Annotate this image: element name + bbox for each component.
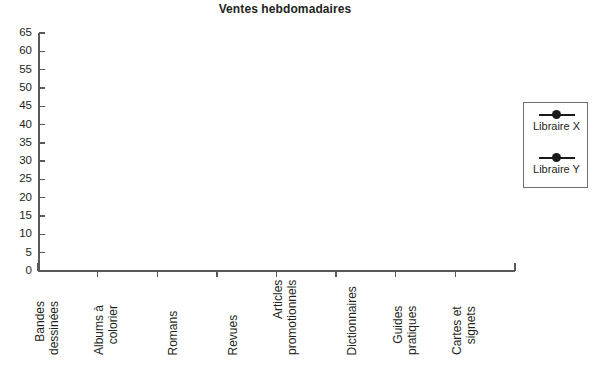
y-axis-tick — [39, 270, 45, 271]
x-axis-category-label: Dictionnaires — [345, 286, 359, 355]
legend-marker-dot-icon — [552, 153, 561, 162]
legend-entry[interactable]: Libraire X — [524, 110, 589, 133]
legend-label: Libraire X — [524, 120, 589, 133]
y-axis-tick — [39, 197, 45, 198]
y-axis-tick — [39, 69, 45, 70]
y-axis-tick — [39, 234, 45, 235]
y-axis-tick-label: 0 — [0, 265, 32, 277]
x-axis-tick — [395, 271, 396, 277]
x-axis-tick — [97, 271, 98, 277]
category-label-line: Cartes et — [451, 306, 465, 355]
y-axis-tick-label: 35 — [0, 137, 32, 149]
category-label-line: pratiques — [405, 306, 419, 355]
y-axis-tick-label: 30 — [0, 155, 32, 167]
chart-title: Ventes hebdomadaires — [0, 2, 570, 16]
category-label-line: promotionnels — [286, 280, 300, 355]
y-axis-tick — [39, 252, 45, 253]
y-axis-tick-label: 5 — [0, 247, 32, 259]
legend-label: Libraire Y — [524, 163, 589, 176]
chart-container: Ventes hebdomadaires 0510152025303540455… — [0, 0, 596, 379]
x-axis-category-label: Revues — [226, 314, 240, 355]
y-axis-tick-label: 10 — [0, 228, 32, 240]
legend-entry[interactable]: Libraire Y — [524, 153, 589, 176]
legend-line-marker-icon — [537, 110, 577, 120]
x-axis-start-cap — [37, 263, 38, 271]
x-axis-tick — [276, 271, 277, 277]
x-axis-category-label: Romans — [167, 310, 181, 355]
category-label-line: Albums à — [93, 305, 107, 355]
category-label-line: Romans — [167, 310, 181, 355]
y-axis-tick-label: 55 — [0, 64, 32, 76]
y-axis-tick-label: 60 — [0, 45, 32, 57]
y-axis-tick — [39, 51, 45, 52]
y-axis-tick — [39, 87, 45, 88]
x-axis-category-label: Articlespromotionnels — [272, 280, 299, 355]
category-label-line: Articles — [272, 280, 286, 355]
legend-line-marker-icon — [537, 153, 577, 163]
y-axis-tick — [39, 142, 45, 143]
category-label-line: signets — [465, 306, 479, 355]
y-axis-tick-label: 40 — [0, 119, 32, 131]
category-label-line: Revues — [226, 314, 240, 355]
category-label-line: dessinées — [47, 301, 61, 355]
x-axis-tick — [335, 271, 336, 277]
x-axis-end-cap — [514, 263, 515, 271]
y-axis-tick — [39, 106, 45, 107]
x-axis-tick — [455, 271, 456, 277]
category-label-line: Guides — [392, 306, 406, 355]
x-axis-tick — [157, 271, 158, 277]
x-axis-category-label: Albums àcolorier — [93, 305, 120, 355]
y-axis-tick — [39, 215, 45, 216]
y-axis-tick — [39, 160, 45, 161]
y-axis-tick-label: 25 — [0, 173, 32, 185]
y-axis-tick-label: 65 — [0, 27, 32, 39]
x-axis-category-label: Cartes etsignets — [451, 306, 478, 355]
category-label-line: Bandes — [34, 301, 48, 355]
category-label-line: Dictionnaires — [345, 286, 359, 355]
y-axis-tick — [39, 179, 45, 180]
legend: Libraire XLibraire Y — [523, 102, 588, 188]
category-label-line: colorier — [107, 305, 121, 355]
legend-marker-dot-icon — [552, 110, 561, 119]
y-axis-tick-label: 45 — [0, 100, 32, 112]
x-axis-category-label: Bandesdessinées — [34, 301, 61, 355]
x-axis-category-label: Guidespratiques — [392, 306, 419, 355]
y-axis-tick-label: 20 — [0, 192, 32, 204]
y-axis-tick-label: 50 — [0, 82, 32, 94]
y-axis-tick — [39, 124, 45, 125]
y-axis-tick-label: 15 — [0, 210, 32, 222]
x-axis-tick — [216, 271, 217, 277]
y-axis-tick — [39, 32, 45, 33]
